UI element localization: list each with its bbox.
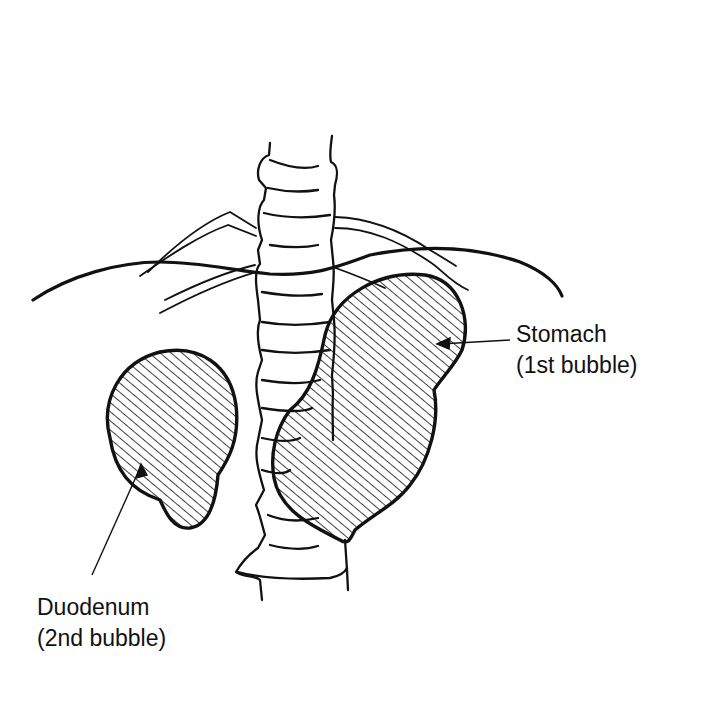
stomach-label: Stomach (1st bubble) [516,319,637,381]
duodenum-label-name: Duodenum [37,592,166,623]
diaphragm-line [33,248,562,300]
duodenum-bubble [107,350,236,528]
duodenum-label-note: (2nd bubble) [37,623,166,654]
diagram-canvas: Stomach (1st bubble) Duodenum (2nd bubbl… [0,0,713,710]
stomach-label-note: (1st bubble) [516,350,637,381]
stomach-label-name: Stomach [516,319,637,350]
duodenum-label: Duodenum (2nd bubble) [37,592,166,654]
stomach-bubble [273,274,466,542]
